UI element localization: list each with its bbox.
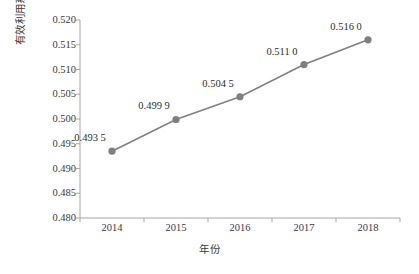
x-axis-title: 年份 [0, 243, 419, 257]
data-point-marker [172, 116, 179, 123]
data-point-label: 0.499 9 [138, 100, 170, 111]
data-point-label: 0.493 5 [74, 132, 106, 143]
x-tick-label: 2018 [338, 222, 398, 234]
x-tick-label: 2016 [210, 222, 270, 234]
data-point-marker [236, 93, 243, 100]
axis-lines [80, 20, 400, 218]
line-chart: 有效利用系数 0.5200.5150.5100.5050.5000.4950.4… [0, 0, 419, 274]
x-tick-label: 2015 [146, 222, 206, 234]
data-point-marker [108, 148, 115, 155]
data-point-marker [364, 36, 371, 43]
x-tick-label: 2017 [274, 222, 334, 234]
data-point-marker [300, 61, 307, 68]
data-point-label: 0.504 5 [202, 78, 234, 89]
tick-marks [76, 20, 400, 222]
x-tick-label: 2014 [82, 222, 142, 234]
data-point-label: 0.516 0 [330, 21, 362, 32]
data-point-label: 0.511 0 [266, 46, 297, 57]
